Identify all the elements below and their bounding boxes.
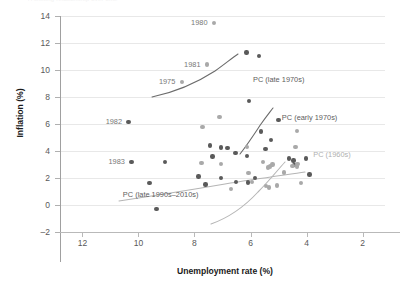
x-tick-label: 2	[351, 238, 375, 248]
y-tick	[55, 151, 60, 152]
y-tick-label: 12	[20, 38, 50, 48]
scatter-point	[250, 180, 254, 184]
scatter-point	[307, 172, 311, 176]
annotation-pc-late-1970s: PC (late 1970s)	[253, 75, 304, 84]
y-tick-label: 0	[20, 200, 50, 210]
scatter-point	[129, 160, 133, 164]
scatter-point	[295, 129, 299, 133]
y-tick-label: 10	[20, 65, 50, 75]
y-tick	[55, 178, 60, 179]
y-tick	[55, 232, 60, 233]
x-tick	[194, 232, 195, 237]
annotation-pc-1960s: PC (1960s)	[313, 150, 350, 159]
scatter-point	[205, 62, 209, 66]
x-tick	[307, 232, 308, 237]
annotation-1980: 1980	[191, 18, 207, 27]
y-tick-label: 8	[20, 92, 50, 102]
x-tick	[138, 232, 139, 237]
scatter-point	[263, 147, 267, 151]
x-tick	[82, 232, 83, 237]
scatter-point	[275, 183, 279, 187]
scatter-point	[293, 145, 297, 149]
y-tick-label: –2	[20, 227, 50, 237]
y-tick-label: 6	[20, 119, 50, 129]
x-tick-label: 10	[126, 238, 150, 248]
y-tick	[55, 124, 60, 125]
y-tick-label: 4	[20, 146, 50, 156]
scatter-point	[199, 161, 203, 165]
scatter-point	[147, 181, 151, 185]
scatter-point	[126, 120, 130, 124]
scatter-point	[200, 125, 204, 129]
scatter-point	[259, 129, 263, 133]
y-tick	[55, 70, 60, 71]
x-tick-label: 4	[295, 238, 319, 248]
y-tick	[55, 43, 60, 44]
scatter-point	[154, 207, 158, 211]
scatter-point	[257, 54, 261, 58]
annotation-1983: 1983	[108, 157, 124, 166]
scatter-point	[304, 156, 308, 160]
scatter-point	[219, 145, 223, 149]
scatter-point	[246, 171, 250, 175]
annotation-pc-late-1990s-2010s: PC (late 1990s–2010s)	[123, 190, 199, 199]
y-tick-label: 2	[20, 173, 50, 183]
scatter-point	[225, 146, 229, 150]
annotation-1982: 1982	[106, 117, 122, 126]
x-tick-label: 8	[182, 238, 206, 248]
x-tick-label: 6	[239, 238, 263, 248]
x-tick-label: 12	[70, 238, 94, 248]
annotation-1975: 1975	[159, 77, 175, 86]
y-tick	[55, 16, 60, 17]
scatter-point	[299, 181, 303, 185]
annotation-1981: 1981	[184, 60, 200, 69]
x-tick	[251, 232, 252, 237]
y-tick-label: 14	[20, 11, 50, 21]
scatter-point	[264, 184, 268, 188]
scatter-point	[270, 162, 274, 166]
scatter-point	[244, 50, 248, 54]
annotation-pc-early-1970s: PC (early 1970s)	[282, 113, 337, 122]
scatter-point	[210, 154, 214, 158]
scatter-point	[276, 118, 280, 122]
scatter-point	[203, 182, 207, 186]
scatter-point	[233, 151, 237, 155]
x-tick	[363, 232, 364, 237]
y-tick	[55, 97, 60, 98]
scatter-point	[196, 174, 200, 178]
scatter-point	[282, 170, 286, 174]
scatter-point	[290, 164, 294, 168]
phillips-curve-figure: A shifting relationship over time Inflat…	[0, 0, 410, 285]
y-tick	[55, 205, 60, 206]
